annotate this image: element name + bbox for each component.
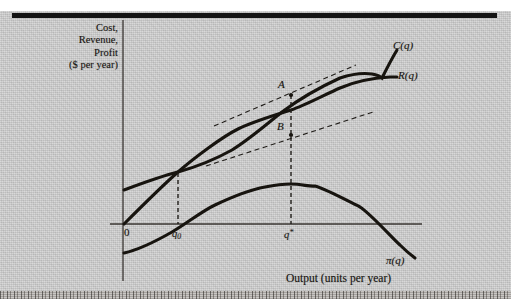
y-axis-title: Cost, Revenue, Profit ($ per year): [16, 22, 118, 72]
point-b-label: B: [277, 120, 284, 133]
revenue-curve: [124, 77, 397, 224]
qstar-tick-label: q*: [284, 228, 293, 241]
point-a-label: A: [278, 78, 285, 91]
profit-curve: [124, 184, 415, 258]
figure-root: Cost, Revenue, Profit ($ per year) Outpu…: [0, 0, 511, 300]
x-axis-title: Output (units per year): [286, 272, 391, 286]
profit-curve-label: π(q): [386, 254, 404, 267]
tangent-line-at-b: [206, 112, 373, 166]
origin-label: 0: [124, 226, 130, 239]
point-marker-a: [289, 93, 293, 97]
q0-subscript: 0: [177, 232, 181, 241]
qstar-superscript: *: [289, 228, 293, 237]
cost-curve-label: C(q): [393, 39, 413, 52]
point-marker-b: [289, 133, 293, 137]
scan-artifact-band: [0, 291, 511, 299]
revenue-curve-label: R(q): [398, 69, 418, 82]
q0-tick-label: q0: [172, 228, 181, 241]
tangent-line-at-a: [214, 65, 356, 126]
